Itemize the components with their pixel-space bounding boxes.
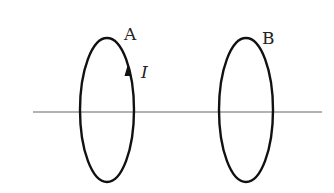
loop-b-label: B xyxy=(262,30,275,47)
loop-a xyxy=(80,38,134,182)
two-coaxial-loops-diagram xyxy=(0,0,334,193)
current-label: I xyxy=(141,64,148,81)
loop-b xyxy=(219,38,273,182)
loop-a-label: A xyxy=(124,26,136,43)
